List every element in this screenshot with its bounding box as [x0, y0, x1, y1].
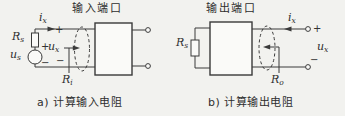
- terminal-icon: [146, 28, 151, 33]
- source-voltage-label: us: [10, 49, 21, 62]
- input-port-label: 输入端口: [69, 3, 125, 14]
- current-arrow-icon: [284, 26, 292, 31]
- current-ix-label-a: ix: [39, 12, 47, 25]
- resistor-icon: [32, 33, 39, 47]
- variable-subscript: x: [55, 45, 59, 54]
- current-arrow-icon: [48, 26, 56, 31]
- variable-subscript: x: [292, 16, 296, 25]
- two-port-network-box: [210, 22, 252, 75]
- terminal-icon: [146, 64, 151, 69]
- two-port-network-box: [95, 23, 132, 75]
- minus-sign-source: −: [41, 58, 49, 68]
- input-resistance-label: Ri: [62, 74, 73, 87]
- caption-a: a) 计算输入电阻: [37, 97, 122, 108]
- variable-subscript: i: [70, 78, 72, 87]
- variable-subscript: s: [184, 41, 188, 50]
- output-port-label: 输出端口: [203, 3, 259, 14]
- variable-subscript: s: [20, 35, 24, 44]
- source-resistance-label-b: Rs: [176, 37, 188, 50]
- plus-sign-port-b: +: [313, 24, 321, 34]
- variable-subscript: s: [17, 53, 21, 62]
- terminal-icon: [306, 27, 311, 32]
- resistance-arrow-icon: [73, 46, 80, 51]
- minus-sign-port-a: −: [56, 56, 64, 66]
- resistor-icon: [191, 40, 199, 56]
- circuit-figure: 输入端口 ix Rs us + − + ux − Ri a) 计算输入电阻 输出…: [0, 0, 345, 116]
- output-resistance-label: Ro: [271, 74, 284, 87]
- plus-sign-port-a: +: [55, 25, 63, 35]
- input-resistance-pointer: [64, 48, 74, 73]
- variable-subscript: o: [279, 78, 284, 87]
- current-ix-label-b: ix: [288, 12, 296, 25]
- terminal-icon: [306, 65, 311, 70]
- minus-sign-port-b: −: [310, 55, 318, 65]
- port-voltage-label-b: ux: [317, 41, 328, 54]
- source-resistance-label-a: Rs: [12, 31, 24, 44]
- voltage-source-icon: [28, 50, 42, 64]
- variable-subscript: x: [43, 16, 47, 25]
- variable-subscript: x: [324, 45, 328, 54]
- resistance-arrow-icon: [263, 45, 270, 50]
- port-voltage-label-a: ux: [48, 41, 59, 54]
- caption-b: b) 计算输出电阻: [208, 97, 293, 108]
